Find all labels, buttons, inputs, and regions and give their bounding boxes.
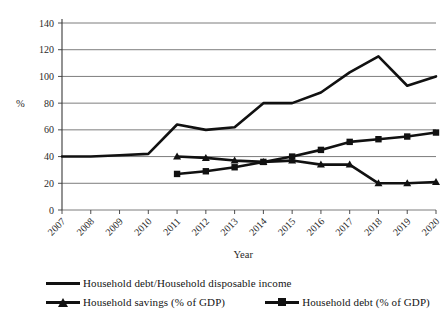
ytick-label-20: 20 bbox=[44, 178, 54, 189]
ytick-label-80: 80 bbox=[44, 98, 54, 109]
xtick-label-2020: 2020 bbox=[419, 216, 441, 238]
ytick-label-60: 60 bbox=[44, 124, 54, 135]
xtick-label-2011: 2011 bbox=[161, 216, 183, 238]
marker-square-2-5 bbox=[318, 147, 324, 153]
chart-figure: 020406080100120140%200720082009201020112… bbox=[0, 0, 444, 319]
marker-square-2-3 bbox=[260, 159, 266, 165]
ytick-label-40: 40 bbox=[44, 151, 54, 162]
legend-label-household-savings: Household savings (% of GDP) bbox=[83, 296, 225, 308]
marker-square-2-1 bbox=[203, 168, 209, 174]
legend-square-swatch-icon bbox=[265, 296, 299, 308]
legend-row-1: Household debt/Household disposable inco… bbox=[0, 277, 444, 289]
xtick-label-2015: 2015 bbox=[276, 216, 298, 238]
legend-row-2: Household savings (% of GDP) Household d… bbox=[0, 296, 444, 308]
legend-item-household-debt-disposable-income: Household debt/Household disposable inco… bbox=[46, 277, 292, 289]
legend-label-household-debt-gdp: Household debt (% of GDP) bbox=[302, 296, 430, 308]
marker-square-2-6 bbox=[346, 139, 352, 145]
marker-square-2-2 bbox=[231, 164, 237, 170]
legend-triangle-swatch-icon bbox=[46, 296, 80, 308]
chart-legend: Household debt/Household disposable inco… bbox=[0, 277, 444, 315]
marker-square-2-8 bbox=[404, 133, 410, 139]
xtick-label-2017: 2017 bbox=[333, 216, 355, 238]
marker-square-2-9 bbox=[433, 129, 439, 135]
xtick-label-2018: 2018 bbox=[362, 216, 384, 238]
xtick-label-2008: 2008 bbox=[74, 216, 96, 238]
xtick-label-2012: 2012 bbox=[189, 216, 211, 238]
marker-square-2-7 bbox=[375, 136, 381, 142]
ytick-label-140: 140 bbox=[39, 18, 54, 29]
legend-line-swatch-icon bbox=[46, 277, 80, 289]
legend-item-household-savings: Household savings (% of GDP) bbox=[46, 296, 225, 308]
xtick-label-2019: 2019 bbox=[391, 216, 413, 238]
marker-square-2-4 bbox=[289, 153, 295, 159]
series-line-2 bbox=[177, 133, 436, 174]
legend-item-household-debt-gdp: Household debt (% of GDP) bbox=[265, 296, 430, 308]
xtick-label-2010: 2010 bbox=[132, 216, 154, 238]
ytick-label-100: 100 bbox=[39, 71, 54, 82]
xtick-label-2009: 2009 bbox=[103, 216, 125, 238]
y-axis-title: % bbox=[16, 98, 25, 109]
plot-area: 020406080100120140%200720082009201020112… bbox=[0, 0, 444, 275]
legend-label-household-debt-disposable-income: Household debt/Household disposable inco… bbox=[83, 277, 292, 289]
ytick-label-0: 0 bbox=[49, 205, 54, 216]
x-axis-title: Year bbox=[234, 249, 254, 260]
marker-square-2-0 bbox=[174, 171, 180, 177]
ytick-label-120: 120 bbox=[39, 44, 54, 55]
xtick-label-2007: 2007 bbox=[45, 216, 67, 238]
xtick-label-2014: 2014 bbox=[247, 216, 269, 238]
xtick-label-2016: 2016 bbox=[304, 216, 326, 238]
xtick-label-2013: 2013 bbox=[218, 216, 240, 238]
